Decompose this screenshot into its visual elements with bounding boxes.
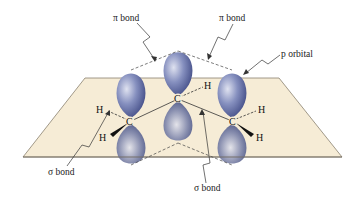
hydrogen-right-1: H	[258, 104, 265, 115]
pi-bond-left-label: π bond	[113, 13, 139, 23]
hydrogen-left-1: H	[96, 104, 103, 115]
carbon-middle: C	[174, 93, 181, 104]
hydrogen-middle: H	[204, 80, 211, 91]
pi-bond-right-label: π bond	[219, 13, 245, 23]
pi-bond-right-leader	[209, 24, 233, 57]
hydrogen-right-2: H	[256, 132, 263, 143]
pi-bond-right-arrowhead	[207, 53, 212, 60]
sigma-bond-left-label: σ bond	[48, 167, 75, 177]
p-orbital-leader	[246, 55, 280, 73]
hydrogen-left-2: H	[99, 132, 106, 143]
carbon-right: C	[229, 116, 236, 127]
p-orbital-arrowhead	[243, 69, 249, 75]
diagram-canvas: C C C H H H H H π bond π bond p orbital …	[0, 0, 363, 208]
p-orbital-label: p orbital	[281, 49, 313, 59]
pi-bond-left-arrowhead	[151, 56, 157, 62]
pi-bond-left-leader	[137, 23, 155, 60]
carbon-left: C	[126, 116, 133, 127]
sigma-bond-right-label: σ bond	[194, 183, 221, 193]
